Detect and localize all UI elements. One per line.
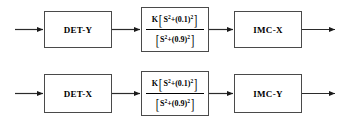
block-imc-x[interactable]: IMC-X [234,11,302,48]
tf-top-den-variable: S [160,35,164,44]
tf-bottom-num-constant: (0.1) [175,79,190,88]
block-det-x-label: DET-X [64,89,93,99]
block-transfer-function-bottom[interactable]: K[S2+(0.1)2] [S2+(0.9)2] [141,71,209,116]
tf-top-num-constant: (0.1) [175,15,190,24]
tf-bottom-numerator: K[S2+(0.1)2] [145,74,205,93]
block-det-y[interactable]: DET-Y [44,11,112,48]
tf-bottom-den-constant: (0.9) [172,99,187,108]
block-imc-x-label: IMC-X [253,25,283,35]
block-imc-y-label: IMC-Y [253,89,283,99]
tf-top-denominator: [S2+(0.9)2] [145,30,205,49]
block-transfer-function-top[interactable]: K[S2+(0.1)2] [S2+(0.9)2] [141,7,209,52]
block-det-x[interactable]: DET-X [44,74,112,113]
tf-top-num-gain: K [152,15,158,24]
block-imc-y[interactable]: IMC-Y [234,74,302,113]
tf-bottom-denominator: [S2+(0.9)2] [145,94,205,113]
tf-top-den-constant: (0.9) [172,35,187,44]
tf-top-numerator: K[S2+(0.1)2] [145,10,205,29]
tf-bottom-den-variable: S [160,99,164,108]
block-det-y-label: DET-Y [64,25,93,35]
tf-bottom-num-gain: K [152,79,158,88]
block-diagram: DET-Y K[S2+(0.1)2] [S2+(0.9)2] IMC-X DET… [0,0,349,128]
